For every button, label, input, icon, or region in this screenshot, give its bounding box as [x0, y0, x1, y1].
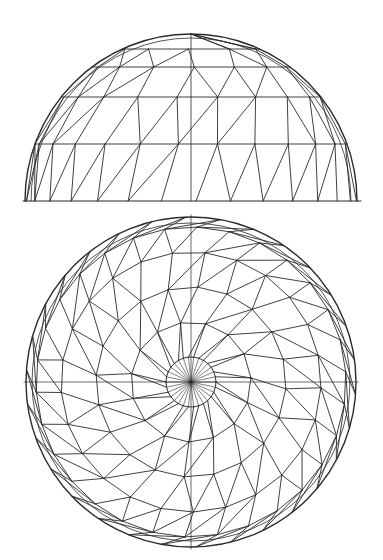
diagonal-strut-line: [211, 397, 234, 424]
diagonal-strut-line: [290, 283, 311, 298]
diagonal-strut-line: [288, 144, 292, 201]
diagonal-strut-line: [199, 335, 228, 358]
ring-strut-line: [181, 323, 206, 324]
diagonal-strut-line: [318, 355, 344, 404]
diagonal-strut-line: [286, 388, 321, 389]
diagonal-strut-line: [272, 325, 308, 332]
diagonal-strut-line: [264, 443, 282, 475]
diagonal-strut-line: [105, 97, 138, 144]
diagonal-strut-line: [211, 354, 244, 367]
diagonal-strut-line: [286, 67, 309, 97]
diagonal-strut-line: [230, 144, 255, 201]
dome-drawing: [0, 0, 383, 560]
ring-strut-line: [36, 360, 37, 392]
diagonal-strut-line: [252, 297, 289, 309]
diagonal-strut-line: [28, 404, 54, 454]
diagonal-strut-line: [83, 432, 111, 453]
diagonal-strut-line: [113, 278, 141, 301]
ring-strut-line: [302, 420, 315, 450]
center-spoke-line: [168, 382, 191, 392]
diagonal-strut-line: [194, 324, 206, 357]
diagonal-strut-line: [255, 144, 263, 201]
diagonal-strut-line: [51, 469, 95, 504]
diagonal-strut-line: [61, 393, 98, 405]
diagonal-strut-line: [103, 346, 132, 373]
ring-strut-line: [61, 393, 68, 425]
diagonal-strut-line: [316, 144, 318, 201]
ring-strut-line: [104, 478, 131, 497]
diagonal-strut-line: [302, 450, 322, 465]
diagonal-strut-line: [287, 97, 288, 144]
ring-strut-line: [256, 475, 282, 495]
diagonal-strut-line: [145, 401, 174, 421]
diagonal-strut-line: [194, 67, 217, 97]
diagonal-strut-line: [208, 354, 244, 364]
dome-plan-view: [24, 215, 358, 549]
ring-strut-line: [68, 424, 82, 453]
diagonal-strut-line: [228, 332, 272, 335]
diagonal-strut-line: [165, 407, 189, 436]
diagonal-strut-line: [46, 275, 66, 328]
ring-strut-line: [72, 301, 89, 329]
ring-strut-line: [140, 332, 157, 350]
diagonal-strut-line: [287, 260, 331, 295]
ring-strut-line: [172, 253, 205, 254]
diagonal-strut-line: [54, 454, 83, 455]
diagonal-strut-line: [80, 274, 89, 301]
ring-strut-line: [344, 372, 345, 404]
ring-strut-line: [145, 421, 165, 436]
center-spoke-line: [191, 382, 214, 392]
diagonal-strut-line: [113, 278, 119, 321]
diagonal-strut-line: [71, 144, 105, 201]
diagonal-strut-line: [154, 49, 189, 67]
diagonal-strut-line: [155, 442, 189, 470]
ring-strut-line: [132, 350, 141, 373]
diagonal-strut-line: [317, 436, 337, 489]
diagonal-strut-line: [105, 253, 113, 278]
ring-strut-line: [282, 450, 302, 475]
diagonal-strut-line: [328, 310, 354, 360]
diagonal-strut-line: [96, 375, 133, 398]
diagonal-strut-line: [63, 360, 96, 375]
ring-strut-line: [290, 297, 308, 324]
ring-strut-line: [141, 253, 172, 262]
ring-strut-line: [213, 424, 234, 438]
diagonal-strut-line: [168, 253, 172, 289]
diagonal-strut-line: [38, 360, 62, 393]
diagonal-strut-line: [172, 227, 197, 253]
diagonal-strut-line: [290, 297, 329, 309]
diagonal-strut-line: [130, 470, 155, 497]
ring-strut-line: [272, 332, 284, 359]
ring-strut-line: [189, 438, 214, 442]
ring-strut-line: [165, 436, 189, 442]
diagonal-strut-line: [286, 389, 316, 420]
diagonal-strut-line: [158, 332, 175, 363]
diagonal-strut-line: [178, 97, 217, 144]
diagonal-strut-line: [35, 97, 64, 144]
dome-elevation-view: [23, 34, 361, 201]
diagonal-strut-line: [287, 97, 315, 144]
diagonal-strut-line: [244, 354, 283, 359]
diagonal-strut-line: [237, 243, 260, 260]
diagonal-strut-line: [263, 144, 288, 201]
diagonal-strut-line: [177, 97, 178, 144]
ring-strut-line: [83, 454, 104, 479]
ring-strut-line: [132, 374, 134, 399]
diagonal-strut-line: [138, 97, 140, 144]
diagonal-strut-line: [208, 401, 214, 438]
ring-strut-line: [141, 290, 168, 302]
diagonal-strut-line: [179, 323, 181, 360]
diagonal-strut-line: [134, 238, 142, 262]
diagonal-strut-line: [256, 443, 264, 495]
diagonal-strut-line: [283, 355, 318, 359]
diagonal-strut-line: [83, 454, 130, 455]
diagonal-strut-line: [95, 497, 130, 504]
diagonal-strut-line: [218, 67, 235, 97]
diagonal-strut-line: [184, 477, 193, 512]
diagonal-strut-line: [96, 374, 131, 376]
diagonal-strut-line: [247, 403, 263, 444]
diagonal-strut-line: [165, 406, 184, 436]
diagonal-strut-line: [315, 420, 336, 436]
ring-strut-line: [158, 323, 181, 332]
diagonal-strut-line: [218, 144, 231, 201]
